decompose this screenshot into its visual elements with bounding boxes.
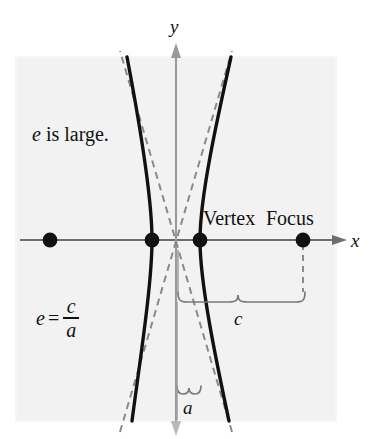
brace-c-label: c (234, 309, 242, 328)
formula-denominator: a (63, 319, 79, 340)
point-left-focus[interactable] (43, 233, 58, 248)
figure-canvas: e is large. e = c a Vertex Focus y x c a (0, 0, 383, 439)
formula-lhs: e (36, 308, 45, 328)
formula-fraction: c a (63, 296, 79, 340)
eccentricity-note-text: is large. (41, 123, 109, 145)
formula-equals-sign: = (48, 308, 59, 328)
vertex-label: Vertex (203, 208, 255, 228)
brace-a-label: a (183, 398, 193, 417)
point-left-vertex[interactable] (145, 233, 160, 248)
eccentricity-formula: e = c a (36, 296, 79, 340)
formula-numerator: c (64, 296, 79, 317)
focus-label: Focus (266, 208, 314, 228)
eccentricity-note-symbol: e (32, 123, 41, 145)
hyperbola-diagram-svg (0, 0, 383, 439)
point-right-vertex[interactable] (193, 233, 208, 248)
x-axis-label: x (351, 231, 359, 250)
eccentricity-note: e is large. (32, 124, 109, 144)
point-right-focus[interactable] (296, 233, 311, 248)
y-axis-label: y (170, 17, 178, 36)
